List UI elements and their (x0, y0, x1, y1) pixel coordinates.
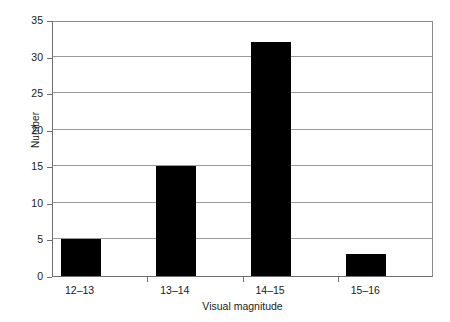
y-axis-tick-label: 35 (31, 14, 43, 27)
gridline (53, 56, 432, 57)
bar (61, 239, 101, 276)
gridline (53, 92, 432, 93)
y-axis-tick-label: 15 (31, 160, 43, 173)
y-axis-tick-label: 20 (31, 124, 43, 137)
y-axis-tick-label: 0 (37, 270, 43, 283)
bar-chart-figure: Number 05101520253035 12–1313–1414–1515–… (0, 0, 450, 322)
gridline (53, 238, 432, 239)
gridline (53, 165, 432, 166)
x-axis-tick-label: 13–14 (127, 283, 222, 297)
gridline (53, 129, 432, 130)
gridline (53, 202, 432, 203)
bar (251, 42, 291, 276)
y-axis-tick-label: 5 (37, 233, 43, 246)
x-axis-tick-label: 15–16 (318, 283, 413, 297)
plot-area (52, 21, 433, 277)
x-axis-tick-mark (147, 277, 148, 282)
x-axis-tick-mark (338, 277, 339, 282)
x-axis-title: Visual magnitude (52, 300, 433, 312)
x-axis-tick-label: 12–13 (32, 283, 127, 297)
y-axis-tick-label: 30 (31, 51, 43, 64)
y-axis-tick-label: 25 (31, 87, 43, 100)
bar (156, 166, 196, 276)
y-axis-tick-label: 10 (31, 197, 43, 210)
y-axis-tick-mark (47, 277, 52, 278)
x-axis-tick-label: 14–15 (223, 283, 318, 297)
bar (346, 254, 386, 276)
x-axis-tick-mark (243, 277, 244, 282)
